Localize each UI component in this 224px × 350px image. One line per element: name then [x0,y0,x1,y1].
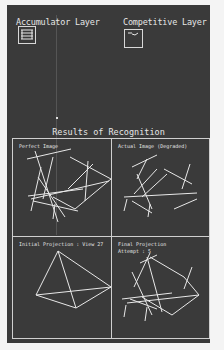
cursor-dot [56,117,58,119]
attempt-label: Attempt : 5 [118,248,151,254]
panel-label: Perfect Image [19,143,58,149]
panel-label: Actual Image (Degraded) [118,143,187,149]
results-grid: Perfect Image Actual Image (Degraded) [12,138,210,339]
competitive-wave-icon [125,30,142,47]
recognition-window: Accumulator Layer Competitive Layer Resu… [7,5,210,343]
panel-actual-image: Actual Image (Degraded) [112,139,209,236]
panel-label: Final Projection [118,241,166,247]
panel-label: Initial Projection : View 27 [19,241,103,247]
panel-initial-projection: Initial Projection : View 27 [13,237,111,338]
results-title: Results of Recognition [7,127,210,137]
panel-perfect-image: Perfect Image [13,139,111,236]
competitive-layer-icon[interactable] [124,29,143,48]
accumulator-grid-icon [19,27,35,43]
pyramid-drawing [13,237,111,338]
accumulator-layer-icon[interactable] [18,26,36,44]
competitive-layer-title: Competitive Layer [123,17,207,27]
wireframe-drawing [13,139,111,236]
panel-final-projection: Final Projection Attempt : 5 [112,237,209,338]
wireframe-drawing [112,139,209,236]
